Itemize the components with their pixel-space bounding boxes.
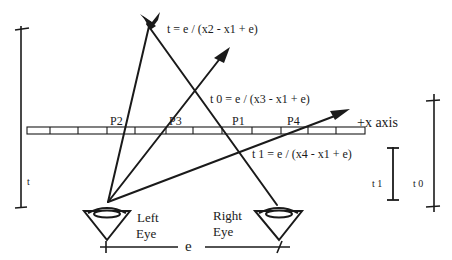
left-eye-label-line2: Eye [136,226,156,241]
point-label-p4: P4 [287,114,300,128]
right-eye-label-line1: Right [213,208,242,223]
e-dimension-label: e [185,238,192,254]
t1-dimension-bar [387,147,399,200]
stereo-geometry-diagram: t P2 P3 P1 P4 +x axis t = e / [0,0,452,260]
equation-t0: t 0 = e / (x3 - x1 + e) [210,92,310,106]
equation-t: t = e / (x2 - x1 + e) [167,22,258,36]
left-eye-icon [84,208,130,240]
right-eye-label-line2: Eye [213,224,233,239]
t0-dimension-label: t 0 [413,178,423,189]
sight-rays [108,22,340,205]
left-eye-label-line1: Left [137,210,159,225]
equation-t1: t 1 = e / (x4 - x1 + e) [252,147,352,161]
arrowhead-t1-icon [330,109,350,120]
e-dimension-line [100,241,290,253]
x-axis-label: +x axis [357,115,398,130]
t0-dimension-bar [426,94,440,212]
point-label-p1: P1 [232,114,245,128]
right-eye-icon [255,208,302,240]
t-dimension-label: t [27,176,30,187]
x-axis-ruler [27,127,365,134]
arrowhead-t0-icon [214,47,230,63]
point-label-p2: P2 [110,114,123,128]
t1-dimension-label: t 1 [372,178,382,189]
ray-right-eye-to-t [147,24,277,205]
